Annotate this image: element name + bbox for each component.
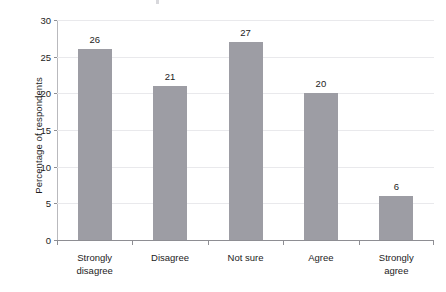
y-axis-title: Percentage of respondents	[33, 36, 44, 236]
x-axis-label: Strongly disagree	[76, 252, 112, 277]
x-tick-mark	[208, 240, 209, 245]
x-tick-mark	[132, 240, 133, 245]
bar-value-label: 6	[394, 181, 399, 192]
bar-value-label: 21	[165, 71, 176, 82]
x-axis-label: Strongly agree	[371, 252, 421, 277]
gridline: 30	[57, 20, 434, 21]
bar[interactable]	[379, 196, 413, 240]
y-tick-label: 30	[40, 15, 51, 26]
y-tick-mark	[54, 167, 57, 168]
x-axis-label: Agree	[308, 252, 333, 265]
gridline: 0	[57, 240, 434, 241]
bar[interactable]	[304, 93, 338, 240]
x-axis-label: Disagree	[151, 252, 189, 265]
y-tick-label: 15	[40, 125, 51, 136]
x-tick-mark	[283, 240, 284, 245]
y-tick-mark	[54, 130, 57, 131]
bar-chart: Percentage of respondents 051015202530 2…	[0, 0, 446, 292]
x-tick-mark	[359, 240, 360, 245]
y-tick-label: 0	[46, 235, 51, 246]
bar-value-label: 27	[240, 27, 251, 38]
x-tick-mark	[433, 240, 434, 245]
plot-area: 051015202530 262127206	[57, 20, 434, 240]
bar[interactable]	[229, 42, 263, 240]
x-tick-mark	[57, 240, 58, 245]
y-tick-label: 10	[40, 161, 51, 172]
bar-value-label: 26	[89, 34, 100, 45]
clipped-title-artifact	[156, 0, 159, 4]
y-tick-mark	[54, 57, 57, 58]
y-tick-mark	[54, 93, 57, 94]
bar-value-label: 20	[316, 78, 327, 89]
bar[interactable]	[78, 49, 112, 240]
x-axis-label: Not sure	[228, 252, 264, 265]
y-tick-label: 20	[40, 88, 51, 99]
bar[interactable]	[153, 86, 187, 240]
y-tick-mark	[54, 20, 57, 21]
y-tick-label: 5	[46, 198, 51, 209]
y-tick-label: 25	[40, 51, 51, 62]
y-tick-mark	[54, 203, 57, 204]
